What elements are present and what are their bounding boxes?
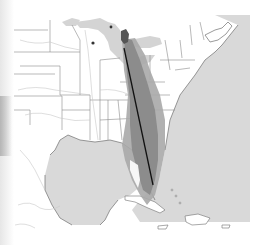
puerto-rico (222, 225, 230, 228)
point-marker-1 (91, 41, 94, 44)
jamaica (158, 225, 168, 229)
map-canvas (0, 0, 260, 245)
range-map: Eastern North America range map (0, 0, 260, 245)
point-marker-2 (110, 26, 113, 29)
